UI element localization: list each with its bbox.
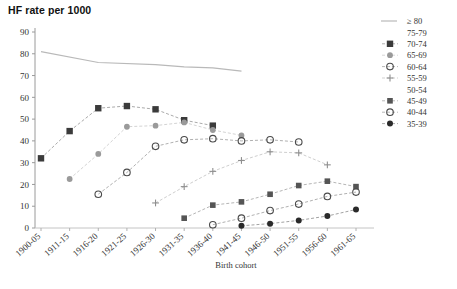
data-series <box>210 189 360 228</box>
data-point <box>238 215 245 222</box>
data-series-group <box>38 52 360 229</box>
data-point <box>387 75 394 82</box>
data-point <box>353 189 360 196</box>
legend-label: 65-69 <box>407 50 427 60</box>
data-point <box>239 199 245 205</box>
data-point <box>324 213 330 219</box>
data-point <box>210 202 216 208</box>
x-tick-label: 1956-60 <box>300 231 329 259</box>
x-tick-label: 1926-30 <box>128 231 157 259</box>
x-tick-label: 1916-20 <box>71 231 100 259</box>
data-point <box>95 191 102 198</box>
legend-item[interactable]: 70-74 <box>382 39 428 49</box>
chart-plot-area: 0102030405060708090 1900-051911-151916-2… <box>0 0 457 289</box>
legend-label: ≥ 80 <box>407 16 422 26</box>
data-series <box>38 103 216 162</box>
data-point <box>387 121 393 127</box>
legend-item[interactable]: 65-69 <box>382 50 427 60</box>
legend-label: 35-39 <box>407 119 427 129</box>
x-tick-label: 1936-40 <box>185 231 214 259</box>
x-tick-label: 1931-35 <box>157 231 186 259</box>
data-point <box>209 168 216 175</box>
legend-item[interactable]: 75-79 <box>407 28 427 38</box>
legend-label: 40-44 <box>407 107 428 117</box>
data-point <box>152 143 159 150</box>
series-line <box>70 122 242 179</box>
legend-item[interactable]: 55-59 <box>382 73 427 83</box>
legend-item[interactable]: 60-64 <box>382 62 428 72</box>
y-tick-label: 10 <box>20 201 30 211</box>
data-point <box>67 176 73 182</box>
y-tick-label: 20 <box>20 180 30 190</box>
y-tick-label: 40 <box>20 136 30 146</box>
legend-item[interactable]: 45-49 <box>382 96 427 106</box>
data-point <box>181 183 188 190</box>
x-tick-label: 1921-25 <box>99 231 128 259</box>
data-point <box>295 149 302 156</box>
data-series <box>41 52 242 72</box>
legend-label: 50-54 <box>407 85 428 95</box>
y-tick-label: 60 <box>20 93 30 103</box>
data-point <box>38 155 44 161</box>
series-line <box>184 181 356 218</box>
data-point <box>353 206 359 212</box>
legend-item[interactable]: ≥ 80 <box>381 16 422 26</box>
data-point <box>238 223 244 229</box>
data-point <box>181 215 187 221</box>
y-tick-label: 30 <box>20 158 30 168</box>
series-line <box>98 139 298 195</box>
data-point <box>181 119 187 125</box>
data-series <box>238 206 359 228</box>
chart-legend: ≥ 8075-7970-7465-6960-6455-5950-5445-494… <box>381 16 428 129</box>
data-point <box>387 52 393 58</box>
data-point <box>387 98 393 104</box>
data-point <box>267 191 273 197</box>
legend-label: 70-74 <box>407 39 428 49</box>
data-point <box>387 41 393 47</box>
legend-label: 45-49 <box>407 96 427 106</box>
data-point <box>66 128 72 134</box>
data-point <box>295 201 302 208</box>
data-point <box>124 103 130 109</box>
y-axis: 0102030405060708090 <box>20 27 35 233</box>
y-tick-label: 50 <box>20 114 30 124</box>
x-axis: 1900-051911-151916-201921-251926-301931-… <box>13 228 374 259</box>
y-tick-label: 80 <box>20 49 30 59</box>
data-point <box>152 200 159 207</box>
data-point <box>210 127 216 133</box>
data-point <box>95 151 101 157</box>
series-line <box>41 52 242 72</box>
series-line <box>213 192 356 225</box>
data-point <box>325 178 331 184</box>
data-point <box>95 105 101 111</box>
data-point <box>296 217 302 223</box>
legend-item[interactable]: 50-54 <box>407 85 428 95</box>
data-point <box>296 183 302 189</box>
data-point <box>267 221 273 227</box>
chart-root: HF rate per 1000 0102030405060708090 190… <box>0 0 457 289</box>
data-series <box>152 148 331 206</box>
data-point <box>267 207 274 214</box>
data-series <box>95 135 302 197</box>
data-series <box>67 119 245 181</box>
x-tick-label: 1946-50 <box>242 231 271 259</box>
data-point <box>267 148 274 155</box>
legend-item[interactable]: 35-39 <box>382 119 427 129</box>
data-point <box>124 124 130 130</box>
x-tick-label: 1961-65 <box>328 231 357 259</box>
legend-label: 60-64 <box>407 62 428 72</box>
legend-item[interactable]: 40-44 <box>382 107 428 117</box>
x-tick-label: 1900-05 <box>13 231 42 259</box>
x-tick-label: 1911-15 <box>42 231 71 259</box>
y-tick-label: 90 <box>20 27 30 37</box>
y-tick-label: 70 <box>20 71 30 81</box>
y-tick-label: 0 <box>25 223 30 233</box>
data-point <box>238 157 245 164</box>
x-tick-label: 1941-45 <box>214 231 243 259</box>
data-point <box>324 161 331 168</box>
legend-label: 55-59 <box>407 73 427 83</box>
legend-label: 75-79 <box>407 28 427 38</box>
x-tick-label: 1951-55 <box>271 231 300 259</box>
data-point <box>153 123 159 129</box>
data-point <box>152 106 158 112</box>
